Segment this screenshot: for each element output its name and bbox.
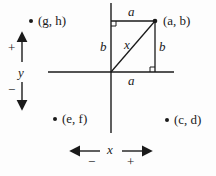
point-e-f xyxy=(53,117,57,121)
label-point-e-f: (e, f) xyxy=(62,112,87,125)
label-bottom-a: a xyxy=(128,74,135,87)
x-plus-sign: + xyxy=(127,155,134,168)
hypotenuse xyxy=(111,21,155,72)
label-point-g-h: (g, h) xyxy=(38,14,66,27)
y-plus-sign: + xyxy=(8,41,15,54)
x-axis-label: x xyxy=(107,143,113,156)
point-c-d xyxy=(165,118,169,122)
label-top-a: a xyxy=(128,5,135,18)
right-angle-marker-bottom xyxy=(150,67,155,72)
point-a-b xyxy=(153,19,158,24)
label-right-b: b xyxy=(159,40,166,53)
label-point-a-b: (a, b) xyxy=(163,14,190,27)
label-left-b: b xyxy=(100,40,107,53)
y-axis-label: y xyxy=(18,66,24,79)
coordinate-diagram: (a, b) (g, h) (e, f) (c, d) a a b b x + … xyxy=(0,0,216,176)
label-point-c-d: (c, d) xyxy=(174,113,201,126)
point-g-h xyxy=(29,19,33,23)
y-minus-sign: − xyxy=(8,83,15,96)
right-angle-marker-top xyxy=(111,21,116,26)
label-hypotenuse-x: x xyxy=(124,38,130,51)
x-minus-sign: − xyxy=(88,155,95,168)
